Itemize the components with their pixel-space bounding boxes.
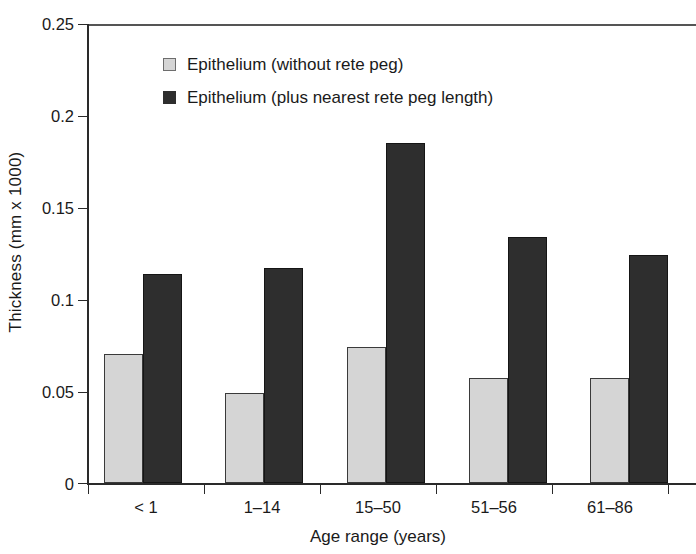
y-tick-label: 0.05 xyxy=(14,384,74,400)
chart-legend: Epithelium (without rete peg) Epithelium… xyxy=(163,48,593,114)
bar xyxy=(386,143,425,483)
dark-square-icon xyxy=(163,91,176,104)
bar xyxy=(469,378,508,483)
x-axis-label: Age range (years) xyxy=(88,526,668,548)
y-tick-mark xyxy=(78,24,87,25)
bar-chart-figure: Thickness (mm x 1000) 0.25 0.2 0.15 0.1 … xyxy=(0,0,696,554)
x-tick-mark xyxy=(668,484,669,494)
bar xyxy=(225,393,264,483)
legend-item: Epithelium (without rete peg) xyxy=(163,48,593,81)
y-tick-label: 0.1 xyxy=(14,292,74,308)
x-tick-label: 1–14 xyxy=(204,497,320,517)
y-tick-label: 0 xyxy=(14,476,74,492)
bar xyxy=(629,255,668,483)
x-axis-line xyxy=(87,483,696,485)
legend-item-label: Epithelium (plus nearest rete peg length… xyxy=(187,88,493,108)
x-tick-mark xyxy=(204,484,205,494)
x-tick-label: 61–86 xyxy=(552,497,668,517)
bar xyxy=(264,268,303,483)
y-tick-mark xyxy=(78,208,87,209)
y-tick-mark xyxy=(78,300,87,301)
bar xyxy=(104,354,143,483)
y-tick-mark xyxy=(78,392,87,393)
x-tick-mark xyxy=(320,484,321,494)
y-tick-label: 0.15 xyxy=(14,200,74,216)
x-tick-mark xyxy=(436,484,437,494)
x-tick-mark xyxy=(552,484,553,494)
bar xyxy=(347,347,386,483)
x-tick-label: 15–50 xyxy=(320,497,436,517)
y-tick-label: 0.25 xyxy=(14,16,74,32)
bar xyxy=(143,274,182,483)
y-tick-mark xyxy=(78,116,87,117)
x-tick-label: 51–56 xyxy=(436,497,552,517)
bar xyxy=(590,378,629,483)
x-tick-label: < 1 xyxy=(88,497,204,517)
legend-item-label: Epithelium (without rete peg) xyxy=(187,55,403,75)
y-tick-mark xyxy=(78,483,87,484)
x-tick-mark xyxy=(88,484,89,494)
light-square-icon xyxy=(163,58,176,71)
y-tick-label: 0.2 xyxy=(14,108,74,124)
y-axis-tick-labels: 0.25 0.2 0.15 0.1 0.05 0 xyxy=(12,0,74,554)
legend-item: Epithelium (plus nearest rete peg length… xyxy=(163,81,593,114)
bar xyxy=(508,237,547,483)
